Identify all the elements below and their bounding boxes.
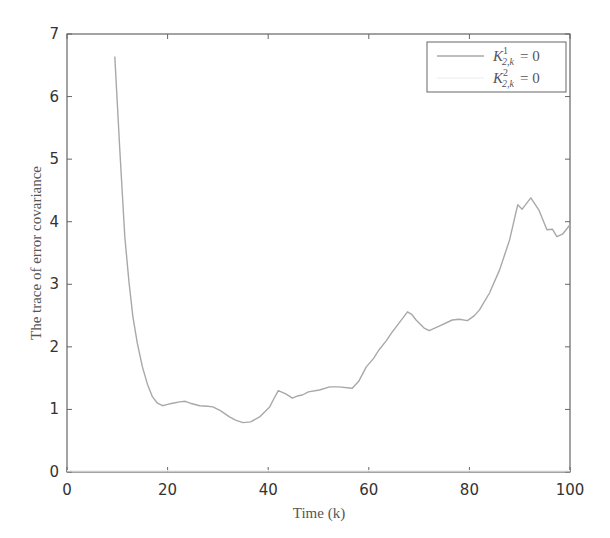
series-layer	[67, 57, 570, 471]
x-tick-label: 100	[556, 481, 585, 499]
y-tick-label: 0	[49, 463, 59, 481]
y-tick-label: 3	[49, 275, 59, 293]
y-tick-label: 4	[49, 213, 59, 231]
series-line-1	[115, 57, 570, 423]
y-axis-ticks: 01234567	[49, 25, 570, 481]
y-tick-label: 7	[49, 25, 59, 43]
y-tick-label: 5	[49, 150, 59, 168]
y-tick-label: 1	[49, 400, 59, 418]
line-chart: 01234567 020406080100 Time (k) The trace…	[0, 0, 610, 538]
y-tick-label: 6	[49, 88, 59, 106]
x-tick-label: 0	[62, 481, 72, 499]
plot-frame	[67, 34, 570, 472]
x-axis-ticks: 020406080100	[62, 34, 584, 499]
x-tick-label: 20	[158, 481, 177, 499]
x-axis-label: Time (k)	[293, 505, 345, 522]
y-axis-label: The trace of error covariance	[28, 166, 44, 340]
x-tick-label: 60	[359, 481, 378, 499]
plot-border	[67, 34, 570, 472]
y-tick-label: 2	[49, 338, 59, 356]
legend: K12,k= 0K22,k= 0	[427, 42, 566, 92]
x-tick-label: 40	[259, 481, 278, 499]
x-tick-label: 80	[460, 481, 479, 499]
